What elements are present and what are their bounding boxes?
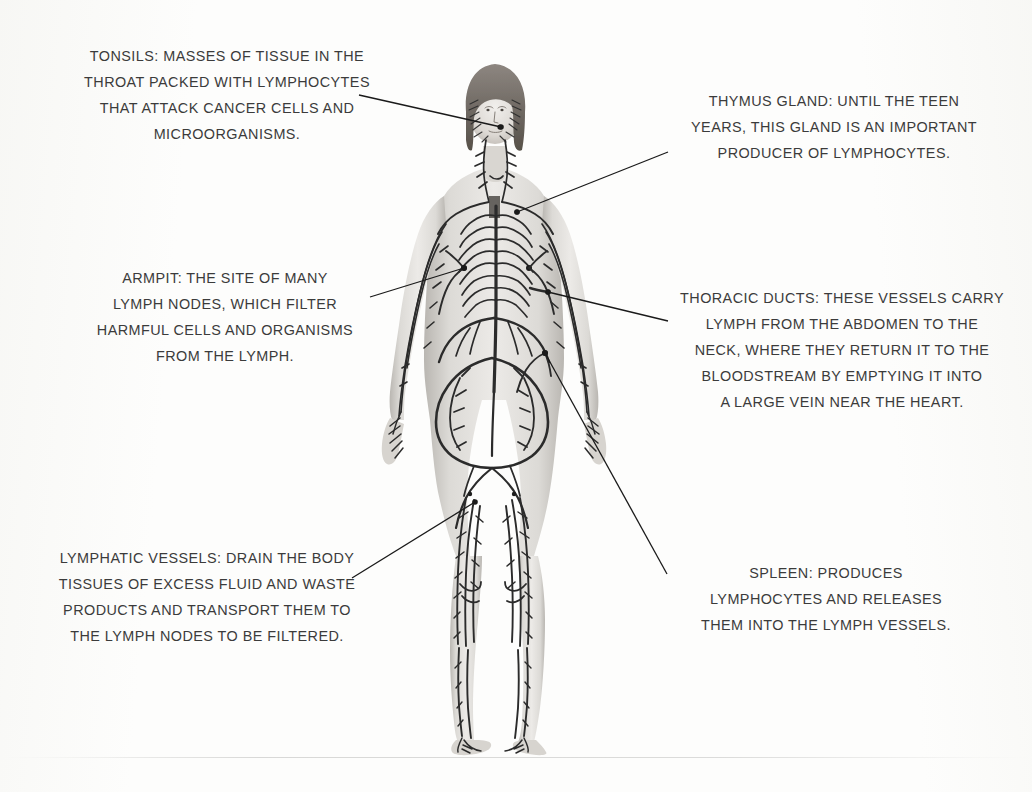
lymphatic-vessels-leader-terminal-dot bbox=[472, 499, 478, 505]
diagram-page: TONSILS: MASSES OF TISSUE IN THE THROAT … bbox=[0, 0, 1032, 792]
callout-thymus-gland: THYMUS GLAND: UNTIL THE TEEN YEARS, THIS… bbox=[666, 88, 1002, 166]
spleen-leader bbox=[545, 353, 667, 574]
thoracic-ducts-leader-terminal-dot bbox=[545, 289, 551, 295]
armpit-leader bbox=[370, 268, 464, 297]
callout-armpit: ARMPIT: THE SITE OF MANY LYMPH NODES, WH… bbox=[72, 265, 378, 369]
callout-spleen: SPLEEN: PRODUCES LYMPHOCYTES AND RELEASE… bbox=[664, 560, 988, 638]
spleen-leader-terminal-dot bbox=[542, 350, 548, 356]
callout-thoracic-ducts: THORACIC DUCTS: THESE VESSELS CARRY LYMP… bbox=[664, 285, 1020, 415]
tonsils-leader-terminal-dot bbox=[498, 124, 504, 130]
callout-tonsils: TONSILS: MASSES OF TISSUE IN THE THROAT … bbox=[66, 43, 388, 147]
armpit-leader-terminal-dot bbox=[461, 265, 467, 271]
callout-lymphatic-vessels: LYMPHATIC VESSELS: DRAIN THE BODY TISSUE… bbox=[38, 545, 376, 649]
thoracic-ducts-leader bbox=[548, 292, 668, 321]
thymus-gland-leader bbox=[517, 152, 668, 212]
thymus-gland-leader-terminal-dot bbox=[514, 209, 520, 215]
